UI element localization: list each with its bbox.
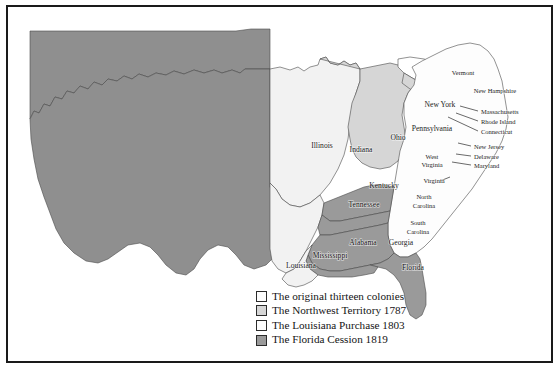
legend-item-louisiana-purchase: The Louisiana Purchase 1803	[256, 318, 446, 333]
legend-label-original-colonies: The original thirteen colonies	[272, 291, 404, 302]
label-georgia: Georgia	[389, 238, 414, 247]
label-virginia: Virginia	[423, 177, 444, 184]
label-florida: Florida	[402, 263, 425, 272]
region-louisiana-purchase	[270, 57, 360, 207]
label-kentucky: Kentucky	[369, 181, 399, 190]
label-massachusetts: Massachusetts	[481, 108, 519, 115]
label-north-carolina-line2: Carolina	[413, 202, 435, 209]
legend-swatch-original-colonies	[256, 291, 267, 302]
legend-item-northwest-territory: The Northwest Territory 1787	[256, 304, 446, 319]
map-regions	[30, 29, 508, 319]
label-new-jersey: New Jersey	[474, 143, 505, 150]
label-illinois: Illinois	[311, 141, 333, 150]
label-mississippi: Mississippi	[313, 251, 348, 260]
label-indiana: Indiana	[350, 145, 373, 154]
map-page: Vermont New Hampshire New York Massachus…	[0, 0, 559, 368]
map-legend: The original thirteen colonies The North…	[256, 289, 446, 347]
legend-label-florida-cession: The Florida Cession 1819	[272, 334, 388, 345]
legend-swatch-northwest-territory	[256, 305, 267, 316]
label-west-virginia-line2: Virginia	[421, 161, 442, 168]
legend-label-northwest-territory: The Northwest Territory 1787	[272, 305, 406, 316]
label-north-carolina-line1: North	[416, 193, 432, 200]
label-south-carolina-line2: Carolina	[407, 228, 429, 235]
label-west-virginia-line1: West	[426, 153, 439, 160]
label-new-york: New York	[425, 100, 456, 109]
legend-swatch-louisiana-purchase	[256, 320, 267, 331]
label-new-hampshire: New Hampshire	[474, 87, 517, 94]
region-southwest-texas	[30, 69, 286, 275]
label-vermont: Vermont	[452, 69, 475, 76]
label-south-carolina-line1: South	[410, 219, 426, 226]
label-louisiana: Louisiana	[286, 261, 317, 270]
legend-swatch-florida-cession	[256, 335, 267, 346]
legend-item-original-colonies: The original thirteen colonies	[256, 289, 446, 304]
label-alabama: Alabama	[349, 238, 377, 247]
legend-item-florida-cession: The Florida Cession 1819	[256, 333, 446, 348]
label-ohio: Ohio	[390, 133, 405, 142]
label-pennsylvania: Pennsylvania	[412, 124, 453, 133]
label-rhode-island: Rhode Island	[481, 118, 516, 125]
label-tennessee: Tennessee	[348, 200, 380, 209]
label-delaware: Delaware	[474, 153, 499, 160]
legend-label-louisiana-purchase: The Louisiana Purchase 1803	[272, 320, 405, 331]
label-maryland: Maryland	[474, 162, 500, 169]
label-connecticut: Connecticut	[481, 128, 513, 135]
